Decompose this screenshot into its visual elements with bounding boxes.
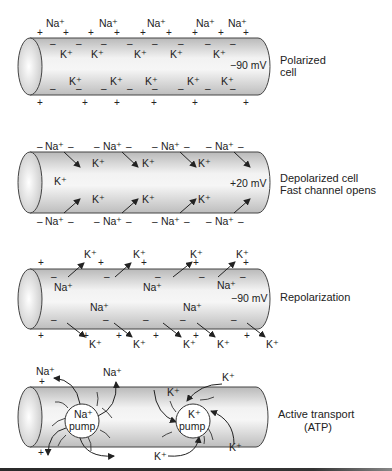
panel-depolarized: –Na⁺– –Na⁺– –Na⁺– –Na⁺– –Na⁺– –Na⁺– –Na⁺… [18,140,377,227]
outside-na-top: –Na⁺– –Na⁺– –Na⁺– –Na⁺– [37,140,244,152]
svg-text:–: – [178,83,184,94]
svg-text:+: + [38,330,44,341]
panel-polarized: Na⁺ Na⁺ Na⁺ Na⁺ Na⁺ ++ ++ ++ ++ + ++ ++ … [18,17,326,108]
na-ion: Na⁺ [147,17,166,29]
svg-text:Na⁺: Na⁺ [103,215,122,227]
svg-text:+: + [153,330,159,341]
svg-text:K⁺: K⁺ [188,408,201,420]
svg-text:Na⁺: Na⁺ [161,140,180,152]
svg-text:–: – [206,216,212,227]
svg-text:–: – [126,216,132,227]
panel-label: Depolarized cell [280,172,358,184]
voltage-readout: +20 mV [230,177,266,189]
svg-text:–: – [51,314,57,325]
svg-text:K⁺: K⁺ [84,248,97,260]
svg-text:–: – [104,271,110,282]
voltage-readout: −90 mV [230,59,266,71]
panel-label: Active transport [278,408,354,420]
svg-text:+: + [37,97,43,108]
svg-text:Na⁺: Na⁺ [215,140,234,152]
svg-text:Na⁺: Na⁺ [103,140,122,152]
svg-text:K⁺: K⁺ [133,338,146,350]
k-ion: K⁺ [229,441,242,453]
svg-text:–: – [184,216,190,227]
svg-text:K⁺: K⁺ [198,193,211,205]
svg-text:Na⁺: Na⁺ [45,140,64,152]
k-ion: K⁺ [187,75,200,87]
svg-text:–: – [103,314,109,325]
svg-text:Na⁺: Na⁺ [161,215,180,227]
svg-text:+: + [193,330,199,341]
svg-text:K⁺: K⁺ [217,338,230,350]
svg-text:–: – [76,38,82,49]
svg-text:–: – [101,83,107,94]
svg-text:–: – [238,141,244,152]
panel-label: Repolarization [280,291,350,303]
svg-text:+: + [192,97,198,108]
svg-text:+: + [63,27,69,38]
svg-text:Na⁺: Na⁺ [54,281,73,293]
membrane-potential-diagram: Na⁺ Na⁺ Na⁺ Na⁺ Na⁺ ++ ++ ++ ++ + ++ ++ … [0,0,392,471]
k-ion: K⁺ [222,371,235,383]
svg-text:–: – [127,83,133,94]
svg-text:–: – [230,38,236,49]
svg-text:–: – [152,216,158,227]
svg-text:–: – [68,141,74,152]
svg-text:K⁺: K⁺ [142,193,155,205]
svg-text:K⁺: K⁺ [92,157,105,169]
svg-text:–: – [68,216,74,227]
svg-text:–: – [94,216,100,227]
svg-text:–: – [231,314,237,325]
svg-text:K⁺: K⁺ [142,157,155,169]
svg-text:+: + [243,27,249,38]
svg-text:–: – [205,38,211,49]
svg-text:–: – [205,83,211,94]
svg-text:+: + [192,27,198,38]
k-ion: K⁺ [145,75,158,87]
svg-text:–: – [152,141,158,152]
outside-na-bottom: –Na⁺– –Na⁺– –Na⁺– –Na⁺– [37,215,244,227]
svg-text:K⁺: K⁺ [198,157,211,169]
svg-text:–: – [206,141,212,152]
svg-text:+: + [243,97,249,108]
k-ion: K⁺ [69,75,82,87]
k-ion: K⁺ [221,75,234,87]
svg-text:–: – [50,83,56,94]
panel-label: (ATP) [304,421,332,433]
svg-text:–: – [143,314,149,325]
svg-text:pump: pump [69,420,95,432]
svg-text:+: + [151,97,157,108]
na-ion: Na⁺ [103,366,122,378]
svg-text:+: + [98,257,104,268]
svg-text:–: – [180,314,186,325]
svg-text:+: + [218,27,224,38]
svg-text:+: + [166,27,172,38]
svg-text:Na⁺: Na⁺ [217,279,236,291]
k-ion: K⁺ [91,48,104,60]
svg-text:+: + [114,27,120,38]
k-ion: K⁺ [167,386,180,398]
k-ion: K⁺ [213,48,226,60]
svg-text:+: + [88,27,94,38]
svg-text:+: + [140,27,146,38]
svg-text:Na⁺: Na⁺ [74,408,93,420]
panel-label: Polarized [280,54,326,66]
panel-repolarization: K⁺ K⁺ K⁺ K⁺ K⁺ K⁺ K⁺ K⁺ K⁺ ++ ++ + [18,248,350,350]
svg-text:+: + [38,447,44,458]
k-ion: K⁺ [170,48,183,60]
svg-text:–: – [50,38,56,49]
panel-label: Fast channel opens [280,184,377,196]
svg-text:+: + [38,257,44,268]
svg-text:K⁺: K⁺ [89,338,102,350]
svg-text:–: – [152,38,158,49]
svg-text:–: – [199,271,205,282]
svg-text:K⁺: K⁺ [54,175,67,187]
svg-text:+: + [193,257,199,268]
outside-k-top: K⁺ K⁺ K⁺ K⁺ [84,248,249,260]
panel-label: cell [280,66,297,78]
svg-text:+: + [141,257,147,268]
svg-text:K⁺: K⁺ [92,193,105,205]
svg-text:–: – [238,216,244,227]
svg-text:+: + [37,27,43,38]
svg-text:+: + [114,97,120,108]
